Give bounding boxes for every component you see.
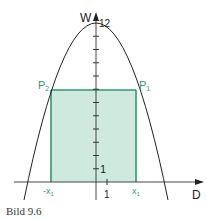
figure-caption: Bild 9.6: [6, 205, 41, 217]
neg-x1-label: -x1: [43, 186, 55, 197]
x-axis-arrow-icon: [195, 179, 204, 185]
diagram-figure: W 12 1 1 D P2 P1 -x1 x1: [0, 0, 207, 220]
point-p1-label: P1: [139, 79, 150, 92]
point-p2-label: P2: [38, 79, 49, 92]
x-axis-label: D: [192, 188, 201, 202]
shaded-rectangle: [51, 90, 136, 182]
y-tick-label-12: 12: [99, 18, 111, 29]
y-tick-label-1: 1: [100, 163, 106, 175]
y-axis-label: W: [80, 11, 92, 25]
pos-x1-label: x1: [132, 186, 141, 197]
x-tick-label-1: 1: [104, 189, 110, 200]
